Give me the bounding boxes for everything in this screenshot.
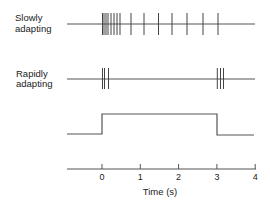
rapidly-adapting-trace (67, 68, 255, 89)
tick-label: 4 (253, 172, 258, 182)
time-axis: 01234 (67, 164, 258, 182)
x-axis-title: Time (s) (143, 186, 177, 197)
tick-label: 2 (176, 172, 181, 182)
tick-label: 3 (214, 172, 219, 182)
tick-label: 0 (99, 172, 104, 182)
spike-diagram: 01234 Time (s) (0, 0, 270, 207)
slowly-adapting-trace (67, 13, 255, 35)
tick-label: 1 (138, 172, 143, 182)
stimulus-step-trace (67, 114, 254, 135)
stimulus-step (67, 114, 254, 135)
